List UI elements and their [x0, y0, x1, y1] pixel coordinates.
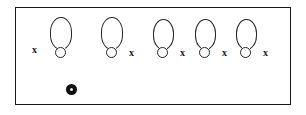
balloon-body-5	[236, 19, 257, 50]
balloon-body-1	[50, 17, 72, 50]
diagram-frame: x x x x	[15, 7, 291, 105]
x-label-3: x	[180, 48, 185, 58]
balloon-neck-1	[55, 47, 66, 58]
balloon-body-4	[195, 19, 216, 50]
figure-root: x x x x	[0, 0, 306, 115]
balloon-neck-2	[106, 47, 117, 58]
marker-dot	[66, 84, 77, 95]
x-label-1: x	[32, 45, 37, 55]
x-label-2: x	[129, 48, 134, 58]
balloon-neck-4	[199, 47, 210, 58]
x-label-5: x	[263, 48, 268, 58]
balloon-neck-3	[157, 47, 168, 58]
balloon-body-3	[153, 19, 174, 50]
balloon-body-2	[101, 17, 123, 50]
balloon-neck-5	[240, 47, 251, 58]
x-label-4: x	[222, 48, 227, 58]
